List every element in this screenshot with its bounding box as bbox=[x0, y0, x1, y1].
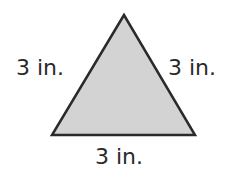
bottom-side-label: 3 in. bbox=[95, 144, 143, 169]
right-side-label: 3 in. bbox=[168, 55, 216, 80]
left-side-label: 3 in. bbox=[16, 55, 64, 80]
triangle-diagram: 3 in. 3 in. 3 in. bbox=[0, 0, 236, 178]
